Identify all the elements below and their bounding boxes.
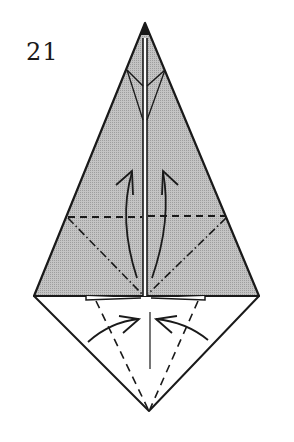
upper-colored-flap — [34, 23, 259, 300]
lower-flap — [34, 296, 259, 411]
origami-diagram — [0, 0, 294, 442]
